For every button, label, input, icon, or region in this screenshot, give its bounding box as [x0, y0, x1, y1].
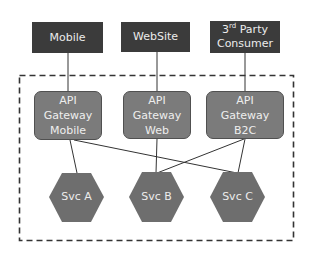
gateway-web-line3: Web — [145, 123, 169, 138]
connector-gwmobile-svcc — [74, 140, 237, 173]
gateway-mobile-line2: Gateway — [44, 108, 93, 123]
gateway-b2c-line1: API — [236, 93, 253, 108]
gateway-mobile-line1: API — [59, 93, 76, 108]
client-third-party-label-line1: 3rd Party — [222, 23, 268, 37]
gateway-b2c-line3: B2C — [234, 123, 256, 138]
svc-b-label: Svc B — [129, 190, 184, 203]
gateway-web: API Gateway Web — [123, 91, 191, 139]
label-prefix: 3 — [222, 23, 229, 36]
svc-c-label: Svc C — [210, 190, 265, 203]
connector-gwb2c-svcc — [238, 139, 245, 173]
client-third-party: 3rd Party Consumer — [210, 21, 280, 53]
client-mobile: Mobile — [32, 22, 103, 53]
svc-a-label: Svc A — [49, 190, 104, 203]
gateway-web-line1: API — [148, 93, 165, 108]
connector-gwweb-svcb — [156, 139, 157, 173]
client-third-party-label-line2: Consumer — [217, 37, 273, 51]
gateway-mobile-line3: Mobile — [50, 123, 86, 138]
connector-gwb2c-svcb — [157, 139, 244, 173]
gateway-mobile: API Gateway Mobile — [34, 91, 102, 140]
client-website-label: WebSite — [133, 30, 178, 44]
gateway-web-line2: Gateway — [133, 108, 182, 123]
client-mobile-label: Mobile — [49, 31, 85, 45]
connector-gwmobile-svca — [70, 140, 77, 173]
gateway-b2c-line2: Gateway — [221, 108, 270, 123]
label-rest: Party — [236, 23, 268, 36]
gateway-b2c: API Gateway B2C — [206, 91, 284, 139]
client-website: WebSite — [121, 22, 190, 52]
